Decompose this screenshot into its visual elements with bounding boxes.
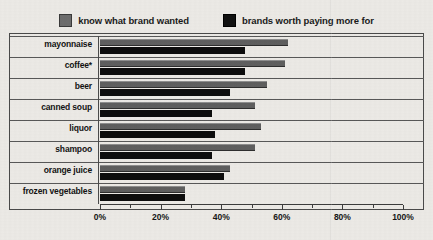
row-divider — [10, 78, 424, 79]
category-label: frozen vegetables — [0, 186, 92, 196]
row-divider — [10, 141, 424, 142]
category-label: mayonnaise — [0, 39, 92, 49]
bar-brands-worth-paying-more-for — [100, 194, 185, 201]
row-divider — [10, 120, 424, 121]
chart-row: frozen vegetables — [0, 183, 433, 204]
x-axis-tick-label: 20% — [141, 212, 181, 222]
category-label: shampoo — [0, 144, 92, 154]
bar-know-what-brand-wanted — [100, 186, 185, 193]
row-divider — [10, 183, 424, 184]
category-axis-line — [98, 120, 99, 141]
x-axis-tick-major — [161, 205, 162, 210]
chart-legend: know what brand wanted brands worth payi… — [0, 12, 433, 28]
legend-entry-know-what-brand-wanted: know what brand wanted — [59, 14, 189, 27]
x-axis-tick-minor — [312, 205, 313, 208]
row-divider — [10, 36, 424, 37]
bar-brands-worth-paying-more-for — [100, 152, 212, 159]
bar-know-what-brand-wanted — [100, 81, 267, 88]
category-axis-line — [98, 78, 99, 99]
bar-know-what-brand-wanted — [100, 102, 255, 109]
category-label: liquor — [0, 123, 92, 133]
bar-know-what-brand-wanted — [100, 60, 285, 67]
category-axis-line — [98, 36, 99, 57]
x-axis-tick-major — [282, 205, 283, 210]
bar-brands-worth-paying-more-for — [100, 68, 245, 75]
x-axis: 0%20%40%60%80%100% — [0, 204, 433, 240]
category-label: beer — [0, 81, 92, 91]
bar-know-what-brand-wanted — [100, 144, 255, 151]
bar-know-what-brand-wanted — [100, 165, 230, 172]
row-divider — [10, 57, 424, 58]
category-axis-line — [98, 162, 99, 183]
bar-know-what-brand-wanted — [100, 123, 261, 130]
legend-label-know-what-brand-wanted: know what brand wanted — [78, 15, 189, 26]
x-axis-tick-major — [403, 205, 404, 210]
chart-row: shampoo — [0, 141, 433, 162]
legend-swatch-icon-black — [223, 14, 236, 27]
bar-brands-worth-paying-more-for — [100, 173, 224, 180]
chart-row: liquor — [0, 120, 433, 141]
row-divider — [10, 99, 424, 100]
bar-brands-worth-paying-more-for — [100, 89, 230, 96]
x-axis-tick-minor — [191, 205, 192, 208]
legend-entry-brands-worth-paying-more-for: brands worth paying more for — [223, 14, 374, 27]
category-axis-line — [98, 141, 99, 162]
category-axis-line — [98, 57, 99, 78]
x-axis-tick-label: 0% — [80, 212, 120, 222]
category-label: canned soup — [0, 102, 92, 112]
chart-rows: mayonnaisecoffee*beercanned soupliquorsh… — [0, 36, 433, 204]
category-axis-line — [98, 99, 99, 120]
bar-know-what-brand-wanted — [100, 39, 288, 46]
x-axis-tick-minor — [130, 205, 131, 208]
bar-chart-figure: know what brand wanted brands worth payi… — [0, 0, 433, 240]
x-axis-tick-minor — [252, 205, 253, 208]
chart-row: orange juice — [0, 162, 433, 183]
chart-row: coffee* — [0, 57, 433, 78]
chart-row: mayonnaise — [0, 36, 433, 57]
category-label: coffee* — [0, 60, 92, 70]
category-label: orange juice — [0, 165, 92, 175]
legend-swatch-icon-gray — [59, 14, 72, 27]
x-axis-tick-major — [342, 205, 343, 210]
chart-row: beer — [0, 78, 433, 99]
row-divider — [10, 162, 424, 163]
x-axis-tick-label: 80% — [322, 212, 362, 222]
category-axis-line — [98, 183, 99, 204]
x-axis-tick-label: 40% — [201, 212, 241, 222]
bar-brands-worth-paying-more-for — [100, 131, 215, 138]
bar-brands-worth-paying-more-for — [100, 47, 245, 54]
legend-label-brands-worth-paying-more-for: brands worth paying more for — [242, 15, 374, 26]
x-axis-tick-minor — [373, 205, 374, 208]
x-axis-tick-major — [100, 205, 101, 210]
chart-row: canned soup — [0, 99, 433, 120]
x-axis-tick-label: 60% — [262, 212, 302, 222]
x-axis-tick-major — [221, 205, 222, 210]
bar-brands-worth-paying-more-for — [100, 110, 212, 117]
x-axis-tick-label: 100% — [383, 212, 423, 222]
